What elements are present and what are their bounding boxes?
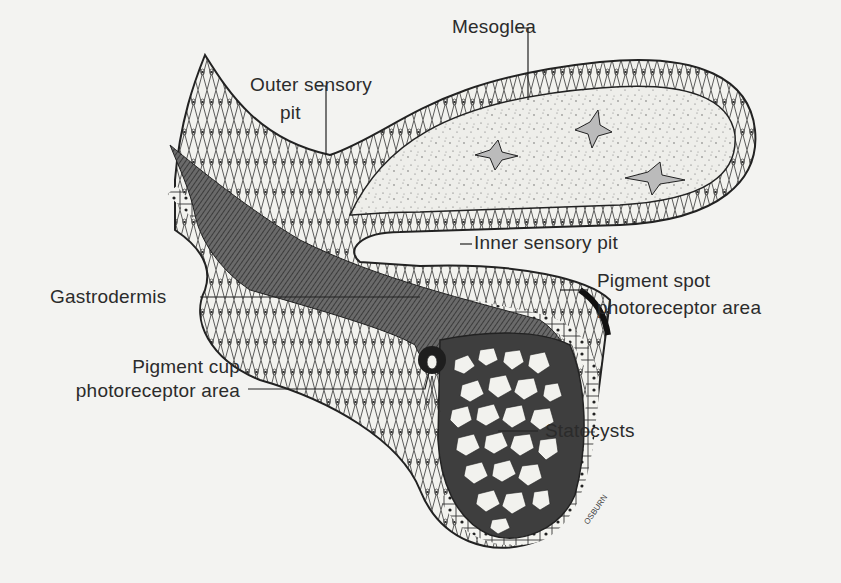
artist-signature: OSBURN xyxy=(582,493,609,526)
rhopalium-diagram: OSBURN Mesoglea Outer sensory pit Inner … xyxy=(0,0,841,583)
label-outer-sensory-pit-line2: pit xyxy=(280,102,301,124)
label-statocysts: Statocysts xyxy=(545,420,635,442)
label-pigment-cup-line1: Pigment cup xyxy=(116,356,240,378)
label-pigment-spot-line1: Pigment spot xyxy=(597,270,710,292)
label-inner-sensory-pit: Inner sensory pit xyxy=(474,232,618,254)
label-pigment-spot-line2: photoreceptor area xyxy=(597,297,761,319)
mesoglea-region xyxy=(350,86,735,215)
label-mesoglea: Mesoglea xyxy=(452,16,536,38)
label-outer-sensory-pit-line1: Outer sensory xyxy=(250,74,372,96)
label-pigment-cup-line2: photoreceptor area xyxy=(48,380,240,402)
label-gastrodermis: Gastrodermis xyxy=(50,286,166,308)
